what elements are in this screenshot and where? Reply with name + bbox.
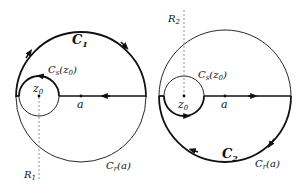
- a-label: a: [77, 98, 84, 111]
- diagram-canvas: C1 Cs(z0) z0 a Cr(a) R1: [0, 0, 304, 187]
- contour-c1-label: C1: [72, 32, 88, 49]
- z0-label: z0: [177, 98, 189, 112]
- big-circle-upper-arc: [159, 30, 291, 96]
- arrow-icon: [192, 150, 198, 152]
- arrow-icon: [40, 76, 44, 77]
- contour-c2-label: C2: [222, 146, 238, 163]
- a-label: a: [221, 98, 228, 111]
- big-circle-label: Cr(a): [255, 158, 280, 171]
- r1-label: R1: [23, 169, 36, 182]
- big-circle-label: Cr(a): [106, 160, 131, 173]
- z0-label: z0: [32, 82, 44, 96]
- contour-diagram: C1 Cs(z0) z0 a Cr(a) R1: [0, 0, 304, 187]
- left-panel: C1 Cs(z0) z0 a Cr(a) R1: [16, 32, 146, 182]
- right-panel: C2 Cs(z0) z0 a Cr(a) R2: [159, 10, 291, 171]
- small-circle-label: Cs(z0): [198, 69, 227, 82]
- point-a: [80, 95, 83, 98]
- point-a: [224, 95, 227, 98]
- small-circle-label: Cs(z0): [48, 64, 77, 77]
- point-z0: [183, 95, 186, 98]
- r2-label: R2: [167, 13, 181, 26]
